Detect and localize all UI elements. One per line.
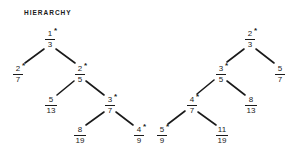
star-marker: *: [196, 93, 199, 101]
star-marker: *: [114, 93, 117, 101]
node-3-5: 35 *: [211, 65, 231, 84]
edge-2-3-to-3-5: [227, 49, 244, 62]
node-4-7: 47 *: [182, 96, 202, 115]
node-2-5: 25 *: [70, 65, 90, 84]
denominator: 5: [70, 76, 90, 84]
star-marker: *: [143, 123, 146, 131]
star-marker: *: [166, 123, 169, 131]
denominator: 7: [182, 107, 202, 115]
denominator: 19: [70, 137, 90, 145]
denominator: 7: [270, 76, 290, 84]
node-11-19: 1119: [212, 126, 232, 145]
denominator: 7: [100, 107, 120, 115]
node-1-3: 13 *: [40, 30, 60, 49]
node-3-7: 37 *: [100, 96, 120, 115]
star-marker: *: [54, 27, 57, 35]
denominator: 3: [40, 41, 60, 49]
numerator: 5: [41, 96, 61, 104]
star-marker: *: [22, 62, 25, 70]
denominator: 13: [41, 107, 61, 115]
edge-2-3-to-5-7: [256, 49, 274, 63]
denominator: 13: [241, 107, 261, 115]
denominator: 5: [211, 76, 231, 84]
denominator: 9: [152, 137, 172, 145]
star-marker: *: [225, 62, 228, 70]
edge-1-3-to-2-7: [25, 49, 44, 63]
node-2-7: 27 *: [8, 65, 28, 84]
node-5-13: 513: [41, 96, 61, 115]
node-5-9: 59 *: [152, 126, 172, 145]
node-5-7: 57: [270, 65, 290, 84]
star-marker: *: [254, 27, 257, 35]
denominator: 9: [129, 137, 149, 145]
numerator: 8: [241, 96, 261, 104]
numerator: 11: [212, 126, 232, 134]
star-marker: *: [84, 62, 87, 70]
denominator: 19: [212, 137, 232, 145]
denominator: 3: [240, 41, 260, 49]
node-2-3: 23 *: [240, 30, 260, 49]
node-8-19: 819: [70, 126, 90, 145]
node-4-9: 49 *: [129, 126, 149, 145]
node-8-13: 813: [241, 96, 261, 115]
numerator: 8: [70, 126, 90, 134]
tree-edges: [0, 0, 300, 153]
edge-1-3-to-2-5: [56, 49, 75, 63]
numerator: 5: [270, 65, 290, 73]
denominator: 7: [8, 76, 28, 84]
